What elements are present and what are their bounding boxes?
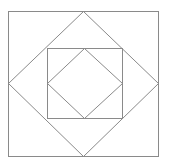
inner-diamond: [48, 49, 123, 119]
diagram-canvas: [0, 0, 172, 163]
inner-square: [48, 49, 123, 119]
outer-square: [9, 12, 159, 157]
nested-squares-diagram: [0, 0, 172, 163]
outer-diamond: [9, 12, 159, 157]
